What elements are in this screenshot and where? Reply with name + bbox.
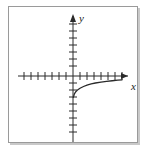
coordinate-plane-graph: y x: [0, 0, 147, 151]
y-axis: [69, 14, 77, 142]
x-axis-label: x: [130, 80, 136, 92]
figure-root: y x: [0, 0, 147, 151]
y-axis-label: y: [78, 12, 84, 24]
logarithmic-curve: [73, 80, 122, 98]
up-arrowhead: [70, 14, 76, 22]
